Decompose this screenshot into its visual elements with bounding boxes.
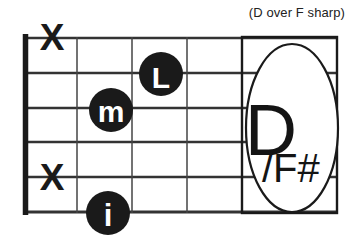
finger-marker-i-label: i <box>104 198 113 233</box>
muted-string-marker-2: X <box>40 157 65 198</box>
finger-marker-L-label: L <box>152 61 170 94</box>
muted-string-marker-1: X <box>40 17 65 58</box>
chord-diagram-svg: X X L m i D /F# <box>0 0 353 243</box>
finger-marker-m-label: m <box>98 95 125 128</box>
chord-diagram-stage: (D over F sharp) X X <box>0 0 353 243</box>
finger-marker-i: i <box>86 191 130 235</box>
finger-marker-m: m <box>89 88 133 132</box>
chord-name-bass: /F# <box>262 146 321 190</box>
finger-marker-L: L <box>139 52 183 96</box>
